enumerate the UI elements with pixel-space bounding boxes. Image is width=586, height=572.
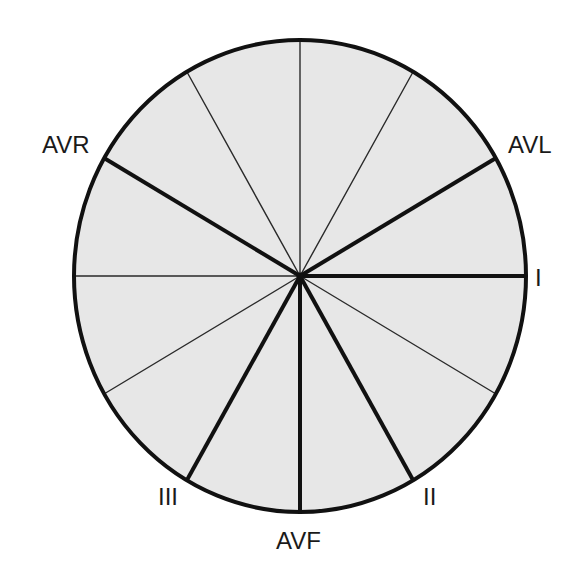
center-point: [297, 273, 304, 280]
label-avr: AVR: [42, 131, 90, 158]
label-iii: III: [158, 483, 178, 510]
hexaxial-diagram: AVR AVL I II III AVF: [0, 0, 586, 572]
label-i: I: [535, 264, 542, 291]
label-ii: II: [423, 483, 436, 510]
label-avl: AVL: [508, 131, 552, 158]
label-avf: AVF: [276, 527, 321, 554]
